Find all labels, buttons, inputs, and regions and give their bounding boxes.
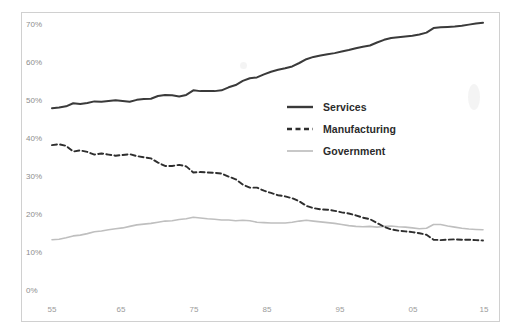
- legend-item-government: Government: [286, 140, 446, 162]
- legend-label-manufacturing: Manufacturing: [323, 123, 396, 135]
- y-tick-label-20: 20%: [26, 210, 42, 219]
- scan-artifact: [468, 84, 480, 110]
- legend: Services Manufacturing Government: [286, 96, 446, 162]
- legend-label-government: Government: [323, 145, 385, 157]
- x-tick-label-65: 65: [110, 305, 132, 314]
- y-tick-label-60: 60%: [26, 58, 42, 67]
- solid-line-swatch-icon: [286, 102, 314, 112]
- dashed-line-swatch-icon: [286, 124, 314, 134]
- y-tick-label-70: 70%: [26, 20, 42, 29]
- y-tick-label-30: 30%: [26, 172, 42, 181]
- x-tick-label-55: 55: [41, 305, 63, 314]
- x-tick-label-15: 15: [473, 305, 495, 314]
- y-tick-label-40: 40%: [26, 134, 42, 143]
- x-tick-label-95: 95: [329, 305, 351, 314]
- line-chart: 70% 60% 50% 40% 30% 20% 10% 0% 55 65 75 …: [0, 0, 522, 336]
- y-tick-label-10: 10%: [26, 248, 42, 257]
- legend-label-services: Services: [323, 101, 367, 113]
- x-tick-label-05: 05: [402, 305, 424, 314]
- scan-artifact-2: [240, 62, 247, 69]
- legend-item-manufacturing: Manufacturing: [286, 118, 446, 140]
- y-tick-label-50: 50%: [26, 96, 42, 105]
- y-tick-label-0: 0%: [26, 286, 38, 295]
- light-solid-line-swatch-icon: [286, 146, 314, 156]
- plot-area-frame: [21, 12, 500, 322]
- legend-item-services: Services: [286, 96, 446, 118]
- x-tick-label-75: 75: [183, 305, 205, 314]
- x-tick-label-85: 85: [256, 305, 278, 314]
